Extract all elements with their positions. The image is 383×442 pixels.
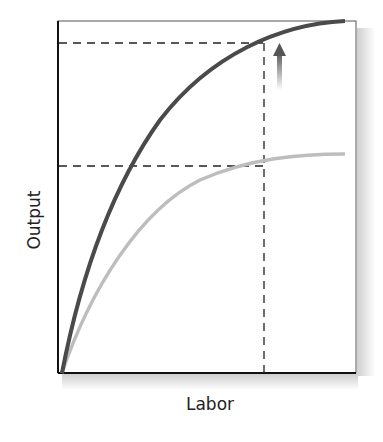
y-axis-label: Output bbox=[14, 180, 54, 260]
plot-shadow-right bbox=[357, 28, 375, 376]
y-axis-label-text: Output bbox=[24, 190, 44, 249]
arrow-shaft bbox=[277, 52, 282, 90]
x-axis-label: Labor bbox=[160, 394, 260, 414]
production-function-chart bbox=[0, 0, 383, 442]
plot-shadow-bottom bbox=[62, 374, 358, 390]
